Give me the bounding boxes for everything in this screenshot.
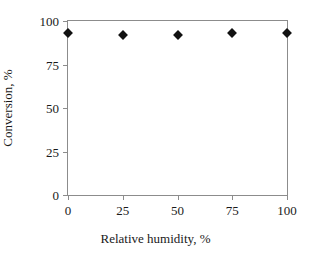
- data-point-marker: [63, 28, 73, 38]
- x-axis-tick: [123, 195, 124, 200]
- y-axis-tick-label: 75: [46, 58, 59, 71]
- data-point-marker: [118, 30, 128, 40]
- y-axis-tick: [63, 65, 68, 66]
- y-axis-tick-label: 50: [46, 102, 59, 115]
- x-axis-tick-label: 0: [65, 204, 72, 217]
- x-axis-tick: [178, 195, 179, 200]
- y-axis-tick-label: 0: [53, 189, 60, 202]
- y-axis-tick-label: 25: [46, 145, 59, 158]
- y-axis-tick-label: 100: [40, 15, 60, 28]
- plot-area: 02550751000255075100: [67, 20, 288, 196]
- data-point-marker: [282, 28, 292, 38]
- y-axis-tick: [63, 108, 68, 109]
- x-axis-tick-label: 50: [171, 204, 184, 217]
- y-axis-title: Conversion, %: [1, 69, 14, 146]
- data-point-marker: [227, 28, 237, 38]
- y-axis-tick: [63, 21, 68, 22]
- x-axis-tick-label: 25: [116, 204, 129, 217]
- x-axis-tick: [232, 195, 233, 200]
- x-axis-tick-label: 75: [226, 204, 239, 217]
- x-axis-title: Relative humidity, %: [0, 232, 311, 245]
- x-axis-tick: [287, 195, 288, 200]
- chart-figure: 02550751000255075100 Relative humidity, …: [0, 0, 311, 257]
- data-point-marker: [173, 30, 183, 40]
- x-axis-tick-label: 100: [277, 204, 297, 217]
- x-axis-tick: [68, 195, 69, 200]
- y-axis-tick: [63, 152, 68, 153]
